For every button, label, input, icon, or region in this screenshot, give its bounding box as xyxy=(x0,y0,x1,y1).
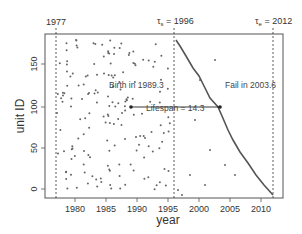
y-tick: 100 xyxy=(29,99,39,114)
x-tick: 2005 xyxy=(220,204,240,214)
chart: 1977 τs = 1996 τe = 2012 1980 1985 1990 … xyxy=(0,0,302,234)
fail-point xyxy=(218,105,222,109)
x-tick: 1990 xyxy=(127,204,147,214)
x-tick: 2000 xyxy=(189,204,209,214)
y-axis xyxy=(41,64,45,189)
birth-point xyxy=(129,105,133,109)
x-tick: 2010 xyxy=(251,204,271,214)
plot-frame xyxy=(45,34,283,198)
label-ts: τs = 1996 xyxy=(157,16,194,27)
fail-annotation: Fail in 2003.6 xyxy=(225,80,276,90)
failure-curve xyxy=(176,40,273,195)
y-tick: 150 xyxy=(29,56,39,71)
x-tick: 1985 xyxy=(96,204,116,214)
label-1977: 1977 xyxy=(46,17,66,27)
birth-annotation: Birth in 1989.3 xyxy=(109,80,164,90)
y-tick: 50 xyxy=(29,143,39,153)
x-axis-label: year xyxy=(156,213,179,227)
y-axis-label: unit ID xyxy=(13,98,27,133)
y-tick: 0 xyxy=(29,186,39,191)
label-te: τe = 2012 xyxy=(255,16,292,27)
x-tick: 1980 xyxy=(65,204,85,214)
lifespan-annotation: Lifespan = 14.3 xyxy=(146,103,205,113)
x-axis xyxy=(75,198,261,202)
scatter-points xyxy=(56,39,236,196)
